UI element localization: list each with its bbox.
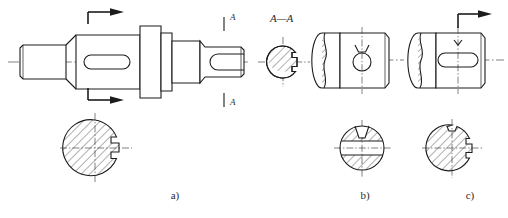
view-c-cut-plane-arrowhead bbox=[478, 10, 492, 17]
view-b-body bbox=[340, 33, 389, 88]
view-c-shaft-end-keyway bbox=[408, 10, 504, 94]
section-circle-a-group bbox=[60, 113, 132, 183]
shaft-journal-right bbox=[200, 41, 244, 83]
section-circle-b-group bbox=[334, 120, 392, 177]
caption-c: c) bbox=[466, 189, 475, 202]
view-a-stepped-shaft: A A bbox=[8, 8, 250, 107]
technical-drawing-sheet: A A A—A bbox=[0, 0, 508, 218]
shaft-journal-left bbox=[20, 45, 66, 79]
shaft-collar-flange bbox=[140, 26, 161, 98]
view-b-shaft-end-hole bbox=[312, 27, 404, 94]
section-mark-bottom-label: A bbox=[229, 97, 236, 107]
shaft-journal-mid bbox=[172, 41, 200, 83]
section-circle-c-group bbox=[422, 119, 484, 178]
cut-plane-top-arrowhead bbox=[110, 8, 124, 15]
caption-a: a) bbox=[171, 189, 180, 202]
section-a-a-view: A—A bbox=[258, 12, 310, 87]
caption-b: b) bbox=[360, 189, 370, 202]
section-mark-top-label: A bbox=[229, 12, 236, 22]
cut-plane-bottom-arrowhead bbox=[110, 96, 124, 103]
drawing-canvas: A A A—A bbox=[0, 0, 508, 218]
shaft-spacer bbox=[161, 33, 172, 91]
section-a-a-title: A—A bbox=[269, 12, 294, 24]
